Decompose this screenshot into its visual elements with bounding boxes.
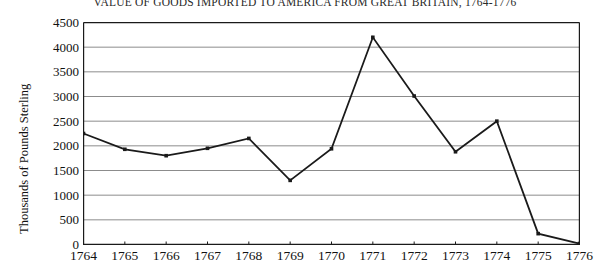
y-tick-label: 500 [35,213,79,226]
y-tick-label: 3000 [35,90,79,103]
gridlines [84,47,580,220]
axis-frame [84,23,580,245]
y-tick-label: 2000 [35,139,79,152]
chart-title: VALUE OF GOODS IMPORTED TO AMERICA FROM … [0,0,610,8]
x-axis-tick-labels: 1764176517661767176817691770177117721773… [83,248,580,270]
data-point-markers [83,36,580,246]
y-tick-label: 2500 [35,115,79,128]
data-series-line [84,37,580,243]
plot-area [83,22,580,245]
y-tick-label: 4000 [35,41,79,54]
y-tick-label: 1000 [35,189,79,202]
x-tick-label: 1776 [550,248,610,264]
y-tick-label: 1500 [35,164,79,177]
line-chart: VALUE OF GOODS IMPORTED TO AMERICA FROM … [0,0,610,271]
y-tick-label: 3500 [35,65,79,78]
y-axis-title: Thousands of Pounds Sterling [2,36,20,236]
y-axis-tick-labels: 450040003500300025002000150010005000 [31,0,79,271]
y-axis-title-text: Thousands of Pounds Sterling [17,84,32,234]
y-tick-label: 4500 [35,16,79,29]
chart-plot-svg [83,22,580,245]
